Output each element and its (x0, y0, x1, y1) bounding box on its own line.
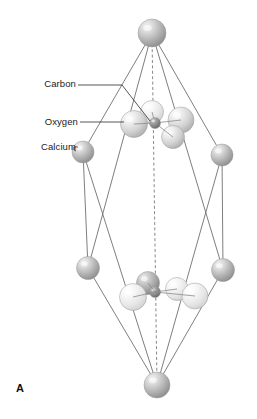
calcium-atom-highlight (215, 149, 222, 154)
calcium-atom-highlight (81, 261, 88, 266)
oxygen-atom-highlight (187, 288, 195, 294)
oxygen-atom-highlight (126, 116, 134, 122)
calcium-atom (138, 19, 166, 47)
calcium-atom-highlight (143, 25, 151, 31)
carbon-atom (150, 118, 161, 129)
calcium-atom (77, 257, 100, 280)
label-carbon: Carbon (44, 78, 76, 89)
calcium-atom (144, 372, 170, 398)
carbon-atom-highlight (152, 120, 155, 122)
crystal-structure-diagram: Carbon Oxygen Calcium A (0, 0, 257, 419)
oxygen-atom-highlight (145, 105, 152, 110)
calcium-atom-highlight (216, 263, 223, 268)
label-calcium: Calcium (41, 141, 76, 152)
oxygen-atom-highlight (141, 276, 148, 281)
crystal-structure-figure: Carbon Oxygen Calcium A (0, 0, 257, 419)
calcium-atom (211, 144, 233, 166)
calcium-atom-highlight (149, 377, 157, 383)
calcium-atom (212, 259, 235, 282)
calcium-atom-highlight (76, 146, 83, 151)
oxygen-atom-highlight (125, 289, 133, 295)
panel-letter: A (16, 382, 24, 394)
oxygen-atom-highlight (170, 282, 177, 287)
oxygen-atom-highlight (173, 112, 181, 118)
figure-background (0, 0, 257, 419)
label-oxygen: Oxygen (45, 116, 78, 127)
